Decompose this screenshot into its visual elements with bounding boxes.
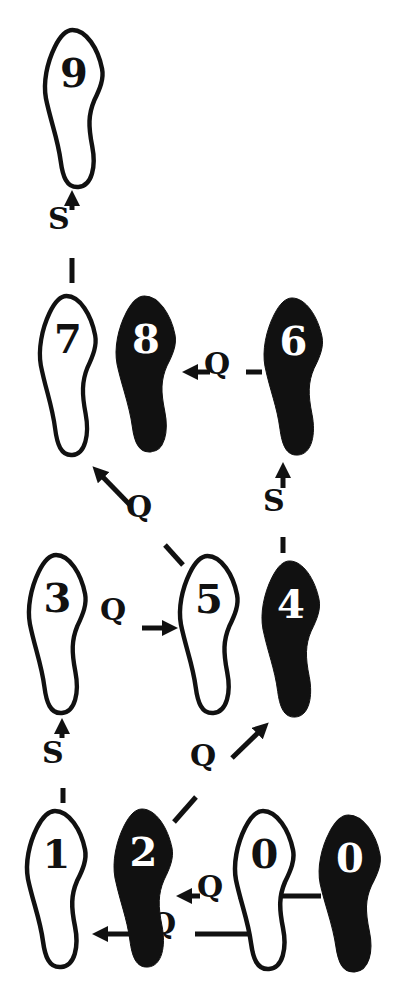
footprint-9: 9 — [43, 27, 105, 190]
step-number: 0 — [233, 834, 296, 874]
step-number: 3 — [27, 578, 88, 618]
step-number: 1 — [25, 834, 88, 874]
rhythm-label-s-4-6: S — [263, 486, 285, 516]
step-number: 6 — [262, 321, 325, 361]
rhythm-label-q-0-1: Q — [150, 909, 176, 939]
rhythm-label-s-1-3: S — [42, 738, 64, 768]
footprint-8: 8 — [114, 293, 178, 455]
footprint-5: 5 — [178, 553, 240, 716]
rhythm-label-q-6-8: Q — [204, 349, 230, 379]
rhythm-label-q-3-5: Q — [100, 595, 126, 625]
footprint-1: 1 — [25, 808, 88, 970]
step-number: 0 — [317, 838, 383, 878]
dance-step-diagram: 97863541200 SQQSQSQQQ — [0, 0, 403, 1008]
rhythm-label-s-3-9: S — [48, 204, 70, 234]
footprint-6: 6 — [262, 295, 325, 458]
footprint-0R: 0 — [317, 812, 383, 975]
step-number: 8 — [114, 319, 178, 359]
step-number: 9 — [43, 53, 105, 93]
step-number: 7 — [38, 319, 98, 359]
footprint-7: 7 — [38, 293, 98, 458]
step-number: 4 — [260, 584, 322, 624]
rhythm-label-q-2-4: Q — [190, 741, 216, 771]
footprint-2: 2 — [112, 806, 175, 970]
arrow-2-to-4 — [232, 728, 263, 758]
rhythm-label-q-0-2: Q — [197, 872, 223, 902]
rhythm-label-q-5-7: Q — [126, 492, 152, 522]
step-number: 5 — [178, 579, 240, 619]
footprint-3: 3 — [27, 552, 88, 716]
footprint-0L: 0 — [233, 808, 296, 972]
step-number: 2 — [112, 832, 175, 872]
footprint-4: 4 — [260, 558, 322, 720]
